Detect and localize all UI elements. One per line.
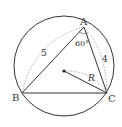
center-point bbox=[62, 69, 65, 72]
radius-label: R bbox=[87, 73, 95, 83]
triangle-abc bbox=[22, 27, 107, 93]
angle-a-label: 60° bbox=[75, 39, 89, 48]
vertex-label-a: A bbox=[79, 16, 88, 27]
vertex-label-b: B bbox=[12, 92, 19, 103]
circumcircle bbox=[14, 16, 114, 116]
vertex-label-c: C bbox=[108, 93, 116, 104]
angle-a-arc bbox=[79, 32, 88, 34]
side-ab-length: 5 bbox=[41, 48, 47, 58]
diagram-canvas: A B C 5 4 60° R bbox=[0, 0, 122, 127]
side-ac-length: 4 bbox=[102, 54, 108, 64]
